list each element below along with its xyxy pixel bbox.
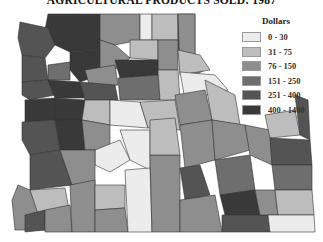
county	[22, 55, 48, 82]
legend-swatch	[242, 47, 261, 57]
legend-item: 0 - 30	[242, 30, 322, 45]
county	[150, 155, 180, 232]
county	[95, 208, 128, 232]
county	[178, 50, 210, 75]
county	[150, 118, 180, 155]
legend-label: 31 - 75	[268, 47, 292, 57]
county	[80, 82, 118, 100]
legend-label: 76 - 150	[268, 61, 296, 71]
legend-swatch	[242, 105, 261, 115]
legend-item: 31 - 75	[242, 45, 322, 60]
county	[222, 215, 270, 232]
county	[180, 165, 210, 200]
county	[270, 138, 312, 165]
county	[175, 90, 212, 125]
legend-swatch	[242, 32, 261, 42]
county	[118, 75, 160, 100]
legend-label: 251 - 400	[268, 90, 301, 100]
county	[22, 120, 60, 155]
county	[95, 185, 125, 210]
county	[45, 205, 72, 232]
county	[272, 165, 312, 190]
county	[158, 40, 178, 70]
county	[275, 190, 314, 215]
county	[180, 195, 222, 232]
county	[140, 14, 152, 40]
county	[180, 120, 215, 168]
county	[55, 98, 85, 120]
county	[152, 14, 178, 40]
legend-title: Dollars	[262, 16, 322, 26]
legend: Dollars 0 - 30 31 - 75 76 - 150 151 - 25…	[242, 16, 322, 117]
county	[125, 168, 152, 232]
county	[212, 120, 250, 160]
legend-swatch	[242, 76, 261, 86]
county	[215, 155, 255, 195]
legend-item: 76 - 150	[242, 59, 322, 74]
legend-item: 251 - 400	[242, 88, 322, 103]
legend-label: 0 - 30	[268, 32, 288, 42]
legend-swatch	[242, 90, 261, 100]
county	[55, 120, 85, 150]
legend-label: 400 - 1400	[268, 105, 305, 115]
legend-swatch	[242, 61, 261, 71]
county	[48, 62, 70, 80]
county	[130, 40, 158, 60]
county	[25, 98, 55, 122]
county	[268, 215, 315, 232]
legend-label: 151 - 250	[268, 76, 301, 86]
county	[70, 180, 95, 232]
legend-item: 151 - 250	[242, 74, 322, 89]
legend-item: 400 - 1400	[242, 103, 322, 118]
